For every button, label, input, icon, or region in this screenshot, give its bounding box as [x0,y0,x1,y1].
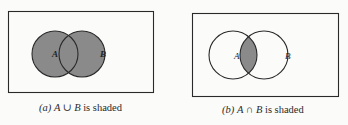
set-b-label: B [285,51,291,61]
set-b-label: B [99,49,106,59]
caption-b-suffix: is shaded [262,104,303,115]
universal-set-box-b [193,14,339,97]
caption-b-label: (b) [222,104,234,115]
caption-a-label: (a) [39,102,51,113]
set-a-label: A [233,51,240,61]
venn-intersection-panel: A B [193,14,339,97]
caption-a-expr: A ∪ B [54,102,81,113]
venn-union-panel: A B [9,12,154,93]
caption-b-expr: A ∩ B [237,104,262,115]
caption-b: (b) A ∩ B is shaded [222,104,304,115]
set-a-label: A [51,49,58,59]
caption-a-suffix: is shaded [81,102,122,113]
caption-a: (a) A ∪ B is shaded [39,101,122,113]
